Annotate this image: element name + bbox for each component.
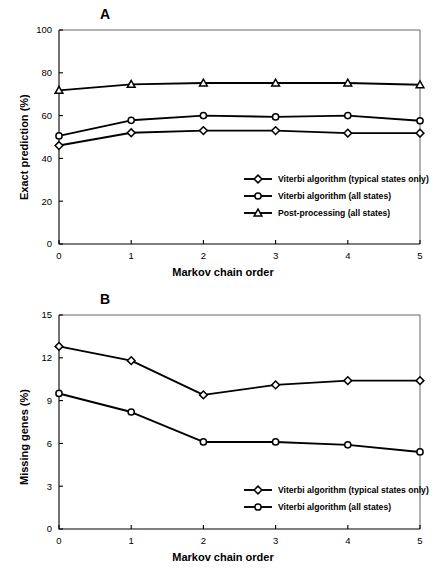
data-point-triangle: [127, 80, 135, 87]
y-tick-label: 12: [41, 352, 52, 363]
legend-label: Viterbi algorithm (typical states only): [278, 485, 429, 495]
panel-b-x-axis-title: Markov chain order: [0, 551, 446, 563]
series-line: [59, 346, 420, 395]
y-tick-label: 80: [41, 67, 52, 78]
data-point-diamond: [55, 343, 63, 351]
data-point-circle: [56, 390, 62, 396]
data-point-circle: [417, 449, 423, 455]
data-point-circle: [255, 193, 261, 199]
data-point-diamond: [200, 391, 208, 399]
series-1: [56, 113, 423, 140]
data-point-circle: [273, 439, 279, 445]
legend-item-1: Viterbi algorithm (all states): [244, 191, 391, 201]
y-tick-label: 15: [41, 309, 52, 320]
data-point-triangle: [416, 81, 424, 88]
data-point-triangle: [55, 86, 63, 93]
x-tick-label: 1: [129, 250, 134, 261]
legend-item-2: Post-processing (all states): [244, 208, 390, 218]
y-tick-label: 20: [41, 196, 52, 207]
plot-axes: [59, 315, 420, 529]
x-tick-label: 2: [201, 250, 206, 261]
legend-label: Viterbi algorithm (all states): [278, 191, 391, 201]
data-point-circle: [273, 114, 279, 120]
data-point-diamond: [254, 175, 262, 183]
data-point-diamond: [55, 142, 63, 150]
data-point-diamond: [254, 486, 262, 494]
data-point-diamond: [416, 377, 424, 385]
series-1: [56, 390, 423, 455]
legend-item-0: Viterbi algorithm (typical states only): [244, 485, 429, 495]
plot-frame: [59, 315, 420, 529]
y-tick-label: 9: [47, 395, 52, 406]
x-tick-label: 4: [345, 535, 350, 546]
data-point-circle: [200, 113, 206, 119]
legend-item-1: Viterbi algorithm (all states): [244, 502, 391, 512]
panel-a-plot: 020406080100012345Viterbi algorithm (typ…: [0, 18, 446, 276]
legend-label: Viterbi algorithm (all states): [278, 502, 391, 512]
x-tick-label: 5: [417, 535, 422, 546]
x-tick-label: 3: [273, 250, 278, 261]
x-tick-label: 3: [273, 535, 278, 546]
data-point-triangle: [254, 209, 262, 216]
x-tick-label: 5: [417, 250, 422, 261]
series-line: [59, 83, 420, 90]
panel-b-plot: 03691215012345Viterbi algorithm (typical…: [0, 303, 446, 561]
data-point-circle: [345, 442, 351, 448]
legend-item-0: Viterbi algorithm (typical states only): [244, 174, 429, 184]
y-tick-label: 6: [47, 438, 52, 449]
data-point-diamond: [200, 127, 208, 135]
data-point-triangle: [272, 79, 280, 86]
x-tick-label: 2: [201, 535, 206, 546]
data-point-circle: [345, 113, 351, 119]
x-tick-label: 0: [56, 535, 61, 546]
series-2: [55, 79, 424, 93]
y-tick-label: 40: [41, 153, 52, 164]
y-tick-label: 100: [36, 24, 52, 35]
data-point-circle: [56, 133, 62, 139]
data-point-circle: [128, 117, 134, 123]
data-point-circle: [255, 504, 261, 510]
data-point-diamond: [127, 357, 135, 365]
data-point-diamond: [344, 129, 352, 137]
panel-b: B Missing genes (%) 03691215012345Viterb…: [0, 285, 446, 573]
panel-a-x-axis-title: Markov chain order: [0, 266, 446, 278]
panel-a: A Exact prediction (%) 02040608010001234…: [0, 0, 446, 288]
series-line: [59, 131, 420, 146]
data-point-diamond: [272, 127, 280, 135]
y-tick-label: 60: [41, 110, 52, 121]
data-point-circle: [128, 409, 134, 415]
y-tick-label: 0: [47, 523, 52, 534]
data-point-triangle: [344, 79, 352, 86]
data-point-diamond: [127, 129, 135, 137]
x-tick-label: 1: [129, 535, 134, 546]
figure-container: A Exact prediction (%) 02040608010001234…: [0, 0, 446, 573]
data-point-circle: [200, 439, 206, 445]
legend-label: Viterbi algorithm (typical states only): [278, 174, 429, 184]
data-point-circle: [417, 118, 423, 124]
data-point-diamond: [416, 129, 424, 137]
series-0: [55, 127, 424, 150]
y-tick-label: 3: [47, 481, 52, 492]
data-point-triangle: [200, 79, 208, 86]
y-tick-label: 0: [47, 238, 52, 249]
legend-label: Post-processing (all states): [278, 208, 390, 218]
data-point-diamond: [344, 377, 352, 385]
series-0: [55, 343, 424, 399]
data-point-diamond: [272, 381, 280, 389]
x-tick-label: 4: [345, 250, 350, 261]
series-line: [59, 393, 420, 451]
x-tick-label: 0: [56, 250, 61, 261]
